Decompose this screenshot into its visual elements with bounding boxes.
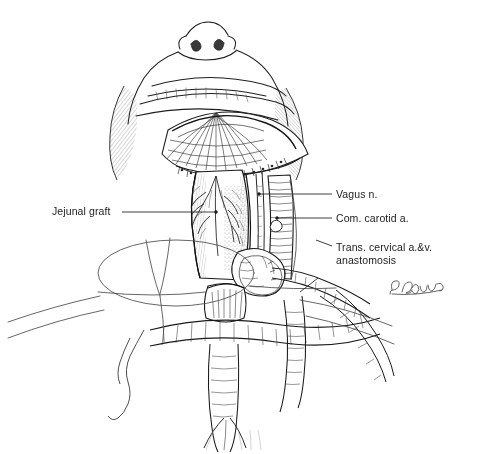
label-transverse-cervical-anastomosis: Trans. cervical a.&v.anastomosis: [336, 241, 456, 266]
label-common-carotid-artery: Com. carotid a.: [336, 212, 409, 225]
great-vessels-lower-neck: [150, 283, 394, 452]
label-line-1: Trans. cervical a.&v.: [336, 241, 432, 253]
label-line-2: anastomosis: [336, 254, 396, 266]
leader-trans-cervical: [316, 240, 332, 246]
head-and-face-outline: [128, 22, 294, 126]
label-jejunal-graft: Jejunal graft: [52, 205, 111, 218]
drain-tubing: [108, 330, 144, 420]
surgical-illustration: [0, 0, 480, 454]
artist-signature: [390, 281, 443, 295]
label-vagus-nerve: Vagus n.: [336, 188, 377, 201]
